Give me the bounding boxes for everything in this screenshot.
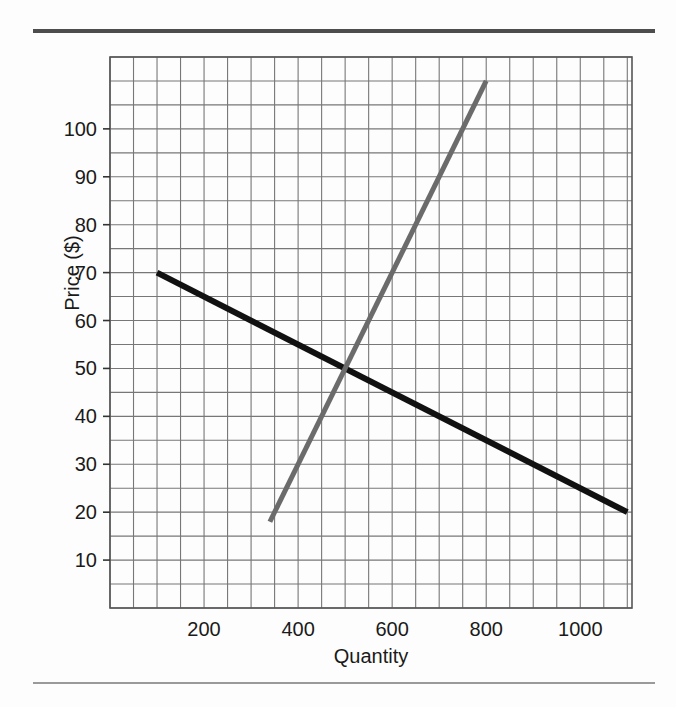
x-axis-title: Quantity <box>231 644 511 668</box>
y-tick-label: 40 <box>37 406 97 426</box>
x-tick-label: 800 <box>441 619 531 639</box>
gridlines-group <box>110 57 632 608</box>
y-tick-label: 30 <box>37 454 97 474</box>
plot-frame <box>110 57 632 608</box>
y-axis-title: Price ($) <box>59 208 85 338</box>
y-tick-label: 90 <box>37 167 97 187</box>
y-tick-label: 10 <box>37 550 97 570</box>
y-tick-marks <box>103 129 110 560</box>
x-tick-label: 400 <box>253 619 343 639</box>
x-tick-label: 1000 <box>535 619 625 639</box>
chart-svg <box>0 0 676 707</box>
y-tick-label: 50 <box>37 358 97 378</box>
axis-frame <box>110 57 632 608</box>
series-line-supply <box>270 81 486 522</box>
y-tick-label: 100 <box>37 119 97 139</box>
chart-plot-area: 102030405060708090100 2004006008001000 P… <box>0 0 676 707</box>
x-tick-label: 200 <box>159 619 249 639</box>
y-tick-label: 20 <box>37 502 97 522</box>
figure-root: 102030405060708090100 2004006008001000 P… <box>0 0 676 707</box>
x-tick-label: 600 <box>347 619 437 639</box>
